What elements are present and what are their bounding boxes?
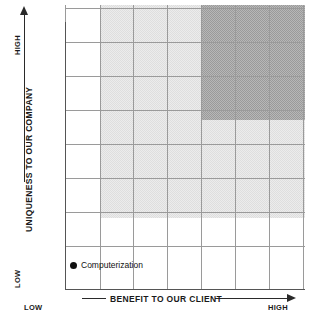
y-axis-line (65, 22, 66, 289)
gridline-horizontal (65, 110, 305, 111)
gridline-horizontal (65, 8, 305, 9)
gridline-horizontal (65, 144, 305, 145)
x-axis-low-label: LOW (24, 303, 42, 312)
gridline-horizontal (65, 178, 305, 179)
right-arrow-icon (287, 294, 296, 302)
up-arrow-icon (20, 6, 28, 15)
plot-area: Computerization (65, 5, 305, 289)
x-axis-title: BENEFIT TO OUR CLIENT (110, 294, 222, 304)
y-axis-low-label: LOW (13, 270, 22, 288)
gridline-horizontal (65, 76, 305, 77)
point-marker-icon (70, 262, 77, 269)
gridline-horizontal (65, 42, 305, 43)
x-axis-high-label: HIGH (268, 303, 288, 312)
x-axis-line (65, 289, 305, 290)
x-axis-rule-left (82, 298, 106, 299)
matrix-chart: Computerization UNIQUENESS TO OUR COMPAN… (0, 0, 311, 316)
y-axis-high-label: HIGH (13, 35, 22, 55)
y-axis-title: UNIQUENESS TO OUR COMPANY (24, 87, 34, 232)
gridline-horizontal (65, 246, 305, 247)
data-point-computerization[interactable]: Computerization (70, 260, 143, 270)
zone-dark-gray (202, 5, 305, 120)
gridline-horizontal (65, 212, 305, 213)
data-point-label: Computerization (81, 260, 143, 270)
x-axis-arrow-shaft (215, 298, 288, 299)
